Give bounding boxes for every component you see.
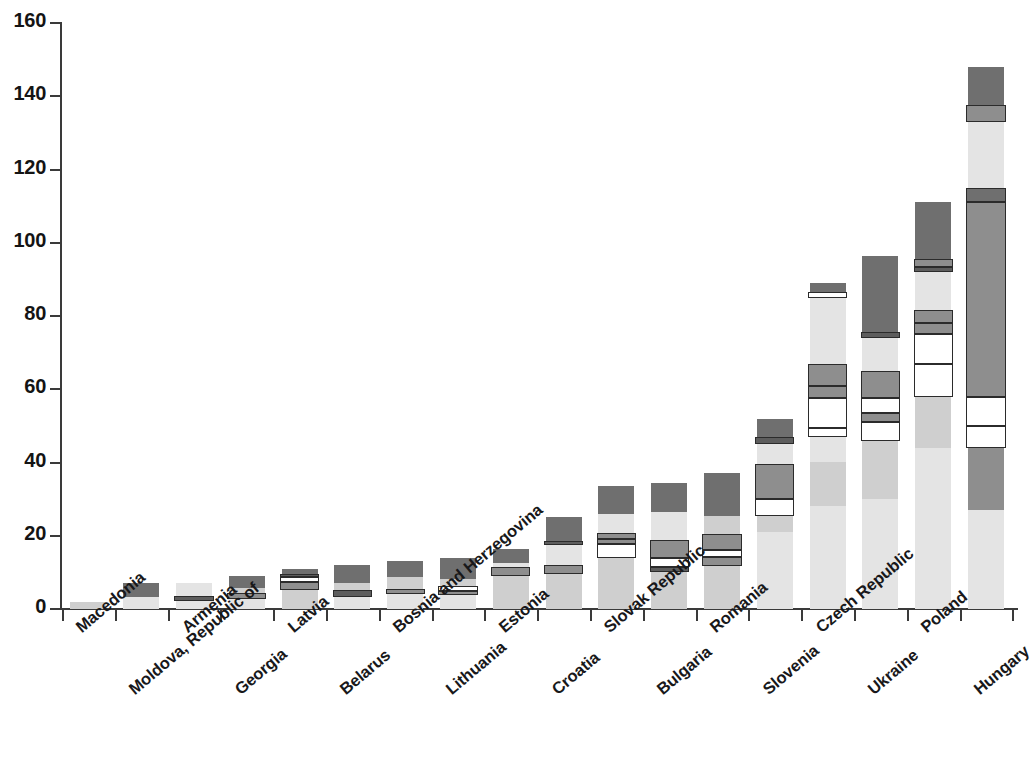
bar-hungary[interactable] <box>968 67 1004 609</box>
bar-segment <box>282 569 318 574</box>
bar-segment <box>915 272 951 310</box>
bar-segment <box>862 338 898 371</box>
bar-segment <box>968 67 1004 105</box>
bar-segment <box>546 545 582 565</box>
bar-segment <box>914 334 953 363</box>
bar-segment <box>757 516 793 532</box>
bar-segment <box>861 413 900 422</box>
bar-segment <box>334 565 370 583</box>
bar-segment <box>546 574 582 609</box>
bar-segment <box>280 574 319 578</box>
bar-segment <box>334 597 370 609</box>
bar-segment <box>861 398 900 413</box>
bar-segment <box>966 188 1005 203</box>
bar-segment <box>914 267 953 272</box>
bar-poland[interactable] <box>915 202 951 609</box>
bar-segment <box>544 565 583 574</box>
bar-segment <box>810 506 846 609</box>
bar-segment <box>915 202 951 259</box>
bar-segment <box>597 539 636 543</box>
bar-segment <box>704 516 740 534</box>
bar-segment <box>702 534 741 551</box>
bar-segment <box>914 310 953 323</box>
bar-slovenia[interactable] <box>757 419 793 609</box>
bar-segment <box>493 563 529 567</box>
bar-segment <box>808 428 847 437</box>
bar-croatia[interactable] <box>546 517 582 609</box>
bar-segment <box>597 533 636 540</box>
bar-segment <box>914 323 953 334</box>
bar-segment <box>757 444 793 464</box>
bar-segment <box>810 298 846 364</box>
bar-romania[interactable] <box>704 473 740 609</box>
bar-segment <box>755 437 794 444</box>
bar-segment <box>651 512 687 540</box>
bar-segment <box>966 426 1005 448</box>
bar-czech-republic[interactable] <box>810 283 846 609</box>
bar-segment <box>704 473 740 515</box>
bar-segment <box>968 510 1004 609</box>
bar-segment <box>651 483 687 512</box>
bar-segment <box>176 583 212 595</box>
bar-segment <box>808 398 847 427</box>
bar-segment <box>808 386 847 399</box>
bar-segment <box>862 256 898 333</box>
bar-segment <box>915 397 951 448</box>
bar-segment <box>598 486 634 513</box>
bar-segment <box>861 371 900 398</box>
bar-segment <box>966 397 1005 426</box>
bar-segment <box>968 448 1004 510</box>
bar-segment <box>914 364 953 397</box>
bar-segment <box>757 419 793 437</box>
bar-segment <box>280 582 319 590</box>
bar-segment <box>702 557 741 566</box>
bar-segment <box>914 259 953 266</box>
bar-segment <box>808 292 847 297</box>
bar-segment <box>702 550 741 557</box>
bar-segment <box>755 499 794 515</box>
bar-segment <box>597 544 636 558</box>
bar-segment <box>755 464 794 499</box>
bar-segment <box>280 577 319 581</box>
bar-segment <box>810 283 846 292</box>
bar-segment <box>915 448 951 609</box>
bar-segment <box>810 437 846 463</box>
bar-segment <box>491 567 530 576</box>
bar-segment <box>861 422 900 440</box>
bar-belarus[interactable] <box>334 565 370 609</box>
bar-slovak-republic[interactable] <box>598 486 634 609</box>
bar-segment <box>861 332 900 337</box>
bar-segment <box>966 105 1005 121</box>
bar-segment <box>808 364 847 386</box>
bar-segment <box>334 583 370 590</box>
bar-segment <box>862 441 898 500</box>
bar-segment <box>598 514 634 533</box>
bar-segment <box>546 517 582 540</box>
bar-segment <box>387 561 423 577</box>
bar-segment <box>968 122 1004 188</box>
bar-segment <box>386 589 425 594</box>
bar-segment <box>387 577 423 589</box>
bar-segment <box>810 462 846 506</box>
bar-segment <box>966 202 1005 396</box>
bar-segment <box>333 590 372 597</box>
bar-segment <box>544 541 583 545</box>
